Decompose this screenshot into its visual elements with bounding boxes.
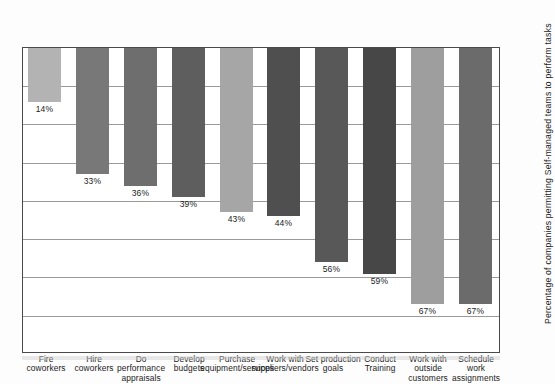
bar-chart-figure: Schedule work assignmentsWork with outsi…: [0, 0, 555, 384]
bar-slot: [28, 48, 61, 354]
bar[interactable]: [315, 48, 348, 262]
bar-slot: [267, 48, 300, 354]
bar[interactable]: [124, 48, 157, 186]
bar-slot: [315, 48, 348, 354]
y-axis-title: Percentage of companies permitting Self-…: [543, 74, 553, 324]
bar-group: 67%67%59%56%44%43%39%36%33%14%: [23, 48, 499, 352]
bar[interactable]: [459, 48, 492, 304]
bar[interactable]: [363, 48, 396, 274]
plot-area: 67%67%59%56%44%43%39%36%33%14%: [22, 47, 500, 353]
bar-value-label: 14%: [22, 104, 67, 114]
bar-value-label: 39%: [166, 199, 211, 209]
bar[interactable]: [411, 48, 444, 304]
bar-value-label: 44%: [261, 218, 306, 228]
bar-value-label: 56%: [309, 264, 354, 274]
bar-slot: [363, 48, 396, 354]
bar-value-label: 33%: [70, 176, 115, 186]
bar-value-label: 36%: [118, 188, 163, 198]
bar-value-label: 59%: [357, 276, 402, 286]
bar-slot: [220, 48, 253, 354]
bar[interactable]: [267, 48, 300, 216]
bar[interactable]: [28, 48, 61, 102]
bar[interactable]: [220, 48, 253, 212]
bar-value-label: 43%: [214, 214, 259, 224]
bar-slot: [124, 48, 157, 354]
bar[interactable]: [76, 48, 109, 174]
bar[interactable]: [172, 48, 205, 197]
bar-value-label: 67%: [405, 306, 450, 316]
scan-artifact: [22, 356, 500, 360]
bar-value-label: 67%: [453, 306, 498, 316]
bar-slot: [76, 48, 109, 354]
